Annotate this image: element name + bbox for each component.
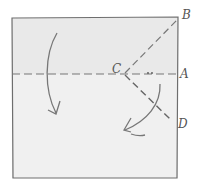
dot-marker <box>147 72 149 74</box>
label-a: A <box>180 68 189 80</box>
paper-lower-half <box>12 74 178 178</box>
label-c: C <box>112 63 121 75</box>
label-d: D <box>178 118 188 130</box>
paper-upper-half <box>12 18 178 74</box>
origami-diagram <box>0 0 202 189</box>
label-b: B <box>182 9 191 21</box>
dot-marker <box>151 72 153 74</box>
